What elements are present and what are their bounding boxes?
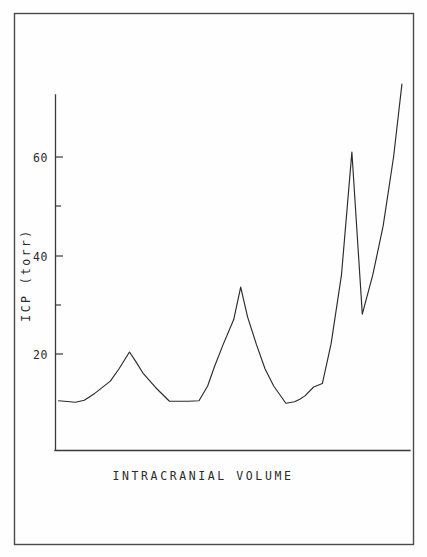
y-tick-label-20: 20	[33, 348, 48, 362]
icp-data-curve	[59, 84, 402, 403]
y-tick-label-40: 40	[33, 250, 48, 264]
y-tick-label-60: 60	[33, 151, 48, 165]
figure-root: 20 40 60 ICP (torr) INTRACRANIAL VOLUME	[0, 0, 427, 557]
y-axis-major-ticks	[56, 157, 64, 354]
y-axis-title: ICP (torr)	[19, 228, 33, 321]
y-axis-tick-labels: 20 40 60	[33, 151, 48, 362]
x-axis-title: INTRACRANIAL VOLUME	[113, 469, 294, 483]
figure-border	[15, 14, 414, 545]
icp-volume-line-chart: 20 40 60 ICP (torr) INTRACRANIAL VOLUME	[0, 0, 427, 557]
